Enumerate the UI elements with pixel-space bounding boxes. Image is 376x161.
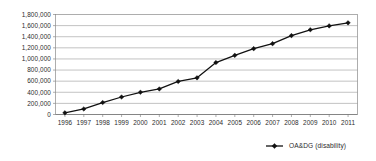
data-point-marker <box>327 24 332 29</box>
x-axis-tick-label: 2006 <box>246 119 261 126</box>
data-point-marker <box>157 87 162 92</box>
y-axis-tick-label: 200,000 <box>27 100 51 107</box>
x-axis-tick-label: 2001 <box>152 119 167 126</box>
chart-canvas: 1,800,0001,600,0001,400,0001,200,0001,00… <box>0 0 376 161</box>
data-point-marker <box>82 107 87 112</box>
data-point-marker <box>251 46 256 51</box>
x-axis-tick-label: 2011 <box>341 119 355 126</box>
x-axis-tick-label: 2005 <box>228 119 243 126</box>
y-axis-tick-label: 0 <box>47 111 51 118</box>
data-point-marker <box>119 95 124 100</box>
x-axis-tick-label: 2004 <box>209 119 224 126</box>
x-axis-tick-label: 1998 <box>95 119 110 126</box>
y-axis-tick-label: 400,000 <box>27 89 51 96</box>
data-point-marker <box>176 79 181 84</box>
x-axis-tick-label: 2008 <box>284 119 299 126</box>
legend-label: OA&DG (disability) <box>289 142 346 150</box>
x-axis-tick-label: 1997 <box>77 119 92 126</box>
data-series-group <box>63 21 351 116</box>
x-axis-tick-label: 2010 <box>322 119 337 126</box>
data-point-marker <box>289 33 294 38</box>
x-axis-tick-label: 1999 <box>114 119 129 126</box>
data-point-marker <box>233 53 238 58</box>
x-axis-tick-label: 2007 <box>265 119 280 126</box>
data-point-marker <box>308 27 313 32</box>
y-axis-tick-labels: 1,800,0001,600,0001,400,0001,200,0001,00… <box>22 11 52 118</box>
data-point-marker <box>270 41 275 46</box>
y-axis-tick-label: 1,600,000 <box>22 22 52 29</box>
y-axis-tick-label: 800,000 <box>27 66 51 73</box>
x-axis-tick-label: 2002 <box>171 119 186 126</box>
x-axis-tick-label: 1996 <box>58 119 73 126</box>
chart-legend: OA&DG (disability) <box>266 142 346 150</box>
x-axis-tick-label: 2000 <box>133 119 148 126</box>
data-point-marker <box>346 21 351 26</box>
legend-marker <box>272 143 277 148</box>
data-point-marker <box>100 100 105 105</box>
y-axis-tick-label: 1,400,000 <box>22 33 52 40</box>
line-chart-figure: 1,800,0001,600,0001,400,0001,200,0001,00… <box>0 0 376 161</box>
data-point-marker <box>138 90 143 95</box>
y-axis-tick-label: 600,000 <box>27 77 51 84</box>
x-axis-tick-labels: 1996199719981999200020012002200320042005… <box>58 119 356 126</box>
y-axis-tick-label: 1,000,000 <box>22 55 52 62</box>
x-axis-tick-label: 2003 <box>190 119 205 126</box>
x-axis-tick-label: 2009 <box>303 119 318 126</box>
series-line <box>65 23 348 113</box>
y-axis-tick-label: 1,800,000 <box>22 11 52 18</box>
y-axis-tick-label: 1,200,000 <box>22 44 52 51</box>
